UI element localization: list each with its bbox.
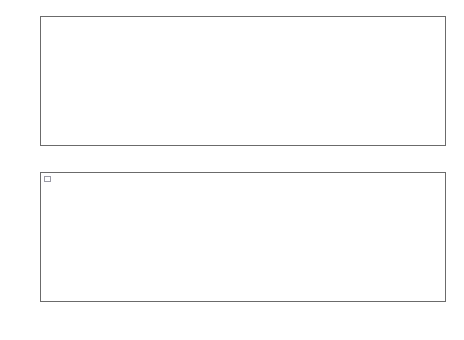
figure-root	[0, 0, 464, 340]
bottom-chart-panel	[0, 168, 464, 340]
currency-pair-legend[interactable]	[44, 176, 51, 182]
bottom-series-layer	[0, 168, 464, 340]
top-series-layer	[0, 0, 464, 170]
top-chart-panel	[0, 0, 464, 170]
